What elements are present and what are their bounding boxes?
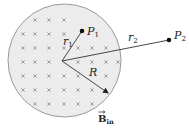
- point-p2: P2: [167, 29, 186, 43]
- b-symbol: Bin: [98, 113, 114, 126]
- point-dot-icon: [167, 38, 172, 43]
- segment-label: R: [88, 66, 97, 79]
- point-dot-icon: [80, 29, 85, 34]
- field-label-b-in: Bin: [98, 111, 114, 126]
- segment-label: r2: [128, 31, 138, 45]
- diagram-canvas: r1r2R P1P2 Bin: [0, 0, 189, 133]
- magnetic-field-diagram: r1r2R P1P2 Bin: [0, 0, 189, 133]
- point-label: P2: [173, 29, 186, 43]
